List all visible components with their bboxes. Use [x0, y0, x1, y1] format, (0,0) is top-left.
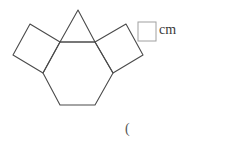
unit-label: cm: [159, 22, 176, 38]
left-square: [13, 24, 60, 73]
open-paren: (: [125, 121, 130, 137]
geometry-figure: [0, 0, 242, 151]
triangle: [60, 10, 95, 42]
hexagon: [43, 42, 113, 105]
right-square: [95, 24, 143, 73]
answer-box[interactable]: [138, 22, 156, 41]
